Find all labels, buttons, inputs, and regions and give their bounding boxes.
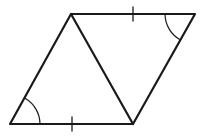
angle-arc-top-right [165, 14, 181, 40]
parallelogram-diagram [0, 0, 205, 138]
diagonal [71, 14, 133, 124]
angle-arc-bottom-left [26, 99, 41, 125]
